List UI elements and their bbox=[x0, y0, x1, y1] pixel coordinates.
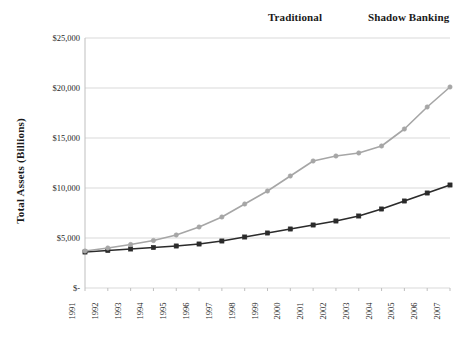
x-axis-tick-label: 2005 bbox=[386, 293, 396, 329]
data-point-marker bbox=[265, 189, 269, 193]
data-point-marker bbox=[174, 233, 178, 237]
data-point-marker bbox=[402, 199, 406, 203]
x-axis-tick-label: 2001 bbox=[295, 293, 305, 329]
plot-area bbox=[0, 0, 463, 339]
data-point-marker bbox=[379, 207, 383, 211]
data-point-marker bbox=[311, 159, 315, 163]
x-axis-tick-label: 2002 bbox=[318, 293, 328, 329]
chart-container: Traditional Shadow Banking Total Assets … bbox=[0, 0, 463, 339]
x-axis-tick-label: 2007 bbox=[432, 293, 442, 329]
series-line-traditional bbox=[85, 185, 450, 252]
series-line-shadow-banking bbox=[85, 87, 450, 251]
x-axis-tick-labels: 1991199219931994199519961997199819992000… bbox=[0, 293, 463, 339]
data-point-marker bbox=[288, 227, 292, 231]
x-axis-tick-label: 1996 bbox=[181, 293, 191, 329]
x-axis-tick-label: 1992 bbox=[90, 293, 100, 329]
data-point-marker bbox=[151, 245, 155, 249]
data-point-marker bbox=[357, 151, 361, 155]
data-point-marker bbox=[243, 235, 247, 239]
data-point-marker bbox=[174, 244, 178, 248]
x-axis-tick-label: 2004 bbox=[364, 293, 374, 329]
data-point-marker bbox=[83, 249, 87, 253]
x-axis-tick-label: 1999 bbox=[250, 293, 260, 329]
data-point-marker bbox=[151, 238, 155, 242]
x-axis-tick-label: 1994 bbox=[135, 293, 145, 329]
x-axis-tick-label: 1991 bbox=[67, 293, 77, 329]
x-axis-tick-label: 1995 bbox=[158, 293, 168, 329]
data-point-marker bbox=[402, 127, 406, 131]
data-point-marker bbox=[448, 85, 452, 89]
data-point-marker bbox=[379, 144, 383, 148]
x-axis-tick-label: 2003 bbox=[341, 293, 351, 329]
data-point-marker bbox=[129, 247, 133, 251]
x-axis-tick-label: 2000 bbox=[272, 293, 282, 329]
data-point-marker bbox=[311, 223, 315, 227]
x-axis-tick-label: 1993 bbox=[113, 293, 123, 329]
data-point-marker bbox=[197, 242, 201, 246]
data-point-marker bbox=[242, 202, 246, 206]
data-point-marker bbox=[220, 239, 224, 243]
data-point-marker bbox=[448, 183, 452, 187]
data-point-marker bbox=[334, 219, 338, 223]
data-point-marker bbox=[288, 174, 292, 178]
data-point-marker bbox=[334, 154, 338, 158]
data-point-marker bbox=[197, 225, 201, 229]
data-point-marker bbox=[128, 242, 132, 246]
data-point-marker bbox=[425, 105, 429, 109]
x-axis-tick-label: 1998 bbox=[227, 293, 237, 329]
data-point-marker bbox=[265, 231, 269, 235]
x-axis-tick-label: 2006 bbox=[409, 293, 419, 329]
data-point-marker bbox=[220, 215, 224, 219]
data-point-marker bbox=[357, 214, 361, 218]
data-point-marker bbox=[106, 246, 110, 250]
x-axis-tick-label: 1997 bbox=[204, 293, 214, 329]
data-point-marker bbox=[425, 191, 429, 195]
